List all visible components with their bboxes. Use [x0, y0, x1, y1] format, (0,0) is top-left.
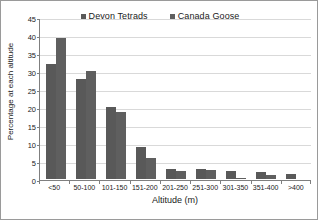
y-tick-label: 35 — [28, 51, 36, 60]
bar — [56, 38, 66, 179]
y-axis-title-text: Percentage at each altitude — [7, 42, 16, 139]
x-tick-label: 351-400 — [251, 184, 281, 191]
bar-group — [221, 19, 251, 179]
bar — [116, 112, 126, 179]
bar-group — [41, 19, 71, 179]
bar-group — [131, 19, 161, 179]
y-tick-label: 45 — [28, 15, 36, 24]
bar — [176, 171, 186, 179]
chart-container: Devon Tetrads Canada Goose Percentage at… — [0, 0, 318, 220]
y-tick-label: 0 — [32, 177, 36, 186]
y-tick-label: 15 — [28, 123, 36, 132]
x-tick-label: 101-150 — [99, 184, 129, 191]
y-tick-mark — [37, 145, 40, 146]
y-tick-label: 30 — [28, 69, 36, 78]
y-tick-mark — [37, 37, 40, 38]
bar-group — [161, 19, 191, 179]
y-tick-label: 20 — [28, 105, 36, 114]
y-tick-mark — [37, 91, 40, 92]
bar-group — [101, 19, 131, 179]
bar — [86, 71, 96, 179]
bar — [146, 158, 156, 179]
x-tick-label: >400 — [281, 184, 311, 191]
x-axis-labels: <5050-100101-150151-200201-250251-300301… — [39, 184, 311, 191]
bar — [196, 169, 206, 179]
plot-wrapper: 051015202530354045 — [39, 19, 311, 181]
bar — [166, 169, 176, 179]
bar — [256, 172, 266, 179]
y-tick-mark — [37, 55, 40, 56]
bar — [236, 178, 246, 179]
bar — [136, 147, 146, 179]
y-tick-label: 5 — [32, 159, 36, 168]
x-tick-label: 151-200 — [130, 184, 160, 191]
x-tick-label: 251-300 — [190, 184, 220, 191]
legend-swatch-devon-tetrads — [81, 14, 86, 19]
y-tick-mark — [37, 109, 40, 110]
x-tick-label: 201-250 — [160, 184, 190, 191]
bar — [226, 171, 236, 179]
bar — [266, 175, 276, 179]
bar — [206, 170, 216, 179]
legend-swatch-canada-goose — [170, 14, 175, 19]
x-tick-label: 301-350 — [220, 184, 250, 191]
y-tick-label: 25 — [28, 87, 36, 96]
y-axis-title: Percentage at each altitude — [3, 1, 19, 181]
x-axis-title: Altitude (m) — [39, 195, 311, 205]
bar-group — [71, 19, 101, 179]
bar — [106, 107, 116, 179]
y-tick-label: 10 — [28, 141, 36, 150]
bar-group — [191, 19, 221, 179]
y-tick-mark — [37, 127, 40, 128]
bar — [76, 79, 86, 179]
bar-group — [251, 19, 281, 179]
bar — [46, 64, 56, 179]
y-tick-label: 40 — [28, 33, 36, 42]
bar-groups — [41, 19, 311, 179]
x-tick-label: <50 — [39, 184, 69, 191]
y-tick-mark — [37, 19, 40, 20]
bar — [286, 174, 296, 179]
y-tick-mark — [37, 73, 40, 74]
x-tick-label: 50-100 — [69, 184, 99, 191]
y-tick-mark — [37, 163, 40, 164]
plot-area: 051015202530354045 — [39, 19, 311, 181]
bar-group — [281, 19, 311, 179]
